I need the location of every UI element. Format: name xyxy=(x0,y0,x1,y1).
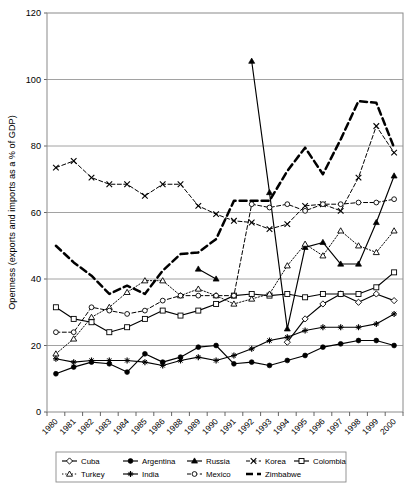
data-point-marker xyxy=(178,357,184,363)
data-point-marker xyxy=(54,330,59,335)
data-point-marker xyxy=(249,202,254,207)
data-point-marker xyxy=(338,228,344,233)
data-point-marker xyxy=(249,220,255,226)
data-point-marker xyxy=(356,291,361,296)
data-point-marker xyxy=(53,305,58,310)
data-point-marker xyxy=(302,328,308,334)
data-point-marker xyxy=(373,291,379,297)
data-point-marker xyxy=(142,316,147,321)
data-point-marker xyxy=(321,202,326,207)
data-point-marker xyxy=(142,359,148,365)
data-point-marker xyxy=(71,359,77,365)
data-point-marker xyxy=(356,338,361,343)
data-point-marker xyxy=(231,352,237,358)
data-point-marker xyxy=(213,357,219,363)
data-point-marker xyxy=(106,357,112,363)
data-point-marker xyxy=(53,356,59,362)
data-point-marker xyxy=(303,295,308,300)
y-tick-label: 60 xyxy=(31,208,41,218)
data-point-marker xyxy=(125,325,130,330)
x-tick-label: 1997 xyxy=(324,416,344,436)
data-point-marker xyxy=(54,371,59,376)
series-cuba xyxy=(284,291,397,345)
x-tick-label: 1980 xyxy=(40,416,60,436)
x-tick-label: 1999 xyxy=(360,416,380,436)
data-point-marker xyxy=(231,301,237,306)
legend-marker xyxy=(128,459,133,464)
data-point-marker xyxy=(124,289,130,294)
x-axis-labels: 1980198119821983198419851986198819891990… xyxy=(40,412,403,437)
x-tick-label: 1983 xyxy=(93,416,113,436)
legend-label: Colombia xyxy=(313,457,347,466)
data-point-marker xyxy=(232,293,237,298)
data-point-marker xyxy=(89,314,95,319)
data-point-marker xyxy=(195,266,201,271)
data-point-marker xyxy=(249,346,255,352)
x-tick-label: 1991 xyxy=(218,416,238,436)
data-point-marker xyxy=(374,338,379,343)
legend-label: Argentina xyxy=(142,457,176,466)
data-point-marker xyxy=(196,345,201,350)
data-point-marker xyxy=(267,363,272,368)
x-tick-label: 1995 xyxy=(289,416,309,436)
data-point-marker xyxy=(373,219,379,224)
series-colombia xyxy=(53,270,396,335)
data-point-marker xyxy=(285,202,290,207)
data-point-marker xyxy=(196,203,202,209)
x-tick-label: 1994 xyxy=(271,416,291,436)
data-point-marker xyxy=(356,175,362,181)
x-tick-label: 2000 xyxy=(378,416,398,436)
legend-marker xyxy=(192,472,197,477)
data-point-marker xyxy=(391,311,397,317)
x-tick-label: 1990 xyxy=(200,416,220,436)
data-point-marker xyxy=(125,370,130,375)
data-point-marker xyxy=(284,326,290,331)
data-point-marker xyxy=(89,357,95,363)
data-point-marker xyxy=(89,320,94,325)
x-tick-label: 1992 xyxy=(235,416,255,436)
data-point-marker xyxy=(232,361,237,366)
data-point-marker xyxy=(356,324,362,330)
data-point-marker xyxy=(391,228,397,233)
data-point-marker xyxy=(338,324,344,330)
legend: CubaArgentinaRussiaKoreaColombiaTurkeyIn… xyxy=(56,452,347,482)
data-point-marker xyxy=(71,316,76,321)
data-point-marker xyxy=(89,305,94,310)
data-point-marker xyxy=(373,321,379,327)
data-point-marker xyxy=(267,226,273,232)
y-tick-label: 100 xyxy=(26,75,41,85)
y-tick-label: 0 xyxy=(36,407,41,417)
data-point-marker xyxy=(249,360,254,365)
data-point-marker xyxy=(374,285,379,290)
data-point-marker xyxy=(214,293,219,298)
data-point-marker xyxy=(267,205,272,210)
data-point-marker xyxy=(284,334,290,340)
chart-canvas: 020406080100120Openness (exports and imp… xyxy=(0,0,416,488)
data-point-marker xyxy=(124,357,130,363)
data-point-marker xyxy=(89,175,95,181)
y-tick-label: 40 xyxy=(31,274,41,284)
series-mexico xyxy=(54,197,397,335)
data-point-marker xyxy=(53,165,59,171)
data-point-marker xyxy=(107,308,112,313)
x-tick-label: 1981 xyxy=(57,416,77,436)
data-point-marker xyxy=(391,298,397,304)
y-axis-title: Openness (exports and imports as a % of … xyxy=(7,115,17,310)
legend-marker xyxy=(299,459,304,464)
data-point-marker xyxy=(160,308,165,313)
data-point-marker xyxy=(196,308,201,313)
legend-label: Mexico xyxy=(206,470,231,479)
data-point-marker xyxy=(249,58,255,63)
data-point-marker xyxy=(213,276,219,281)
openness-line-chart: 020406080100120Openness (exports and imp… xyxy=(0,0,416,488)
data-point-marker xyxy=(214,301,219,306)
data-point-marker xyxy=(196,293,201,298)
x-tick-label: 1986 xyxy=(146,416,166,436)
data-point-marker xyxy=(303,353,308,358)
data-point-marker xyxy=(71,158,77,164)
x-tick-label: 1998 xyxy=(342,416,362,436)
x-tick-label: 1989 xyxy=(182,416,202,436)
data-point-marker xyxy=(267,189,273,194)
data-point-marker xyxy=(142,193,148,199)
legend-marker xyxy=(128,471,134,477)
